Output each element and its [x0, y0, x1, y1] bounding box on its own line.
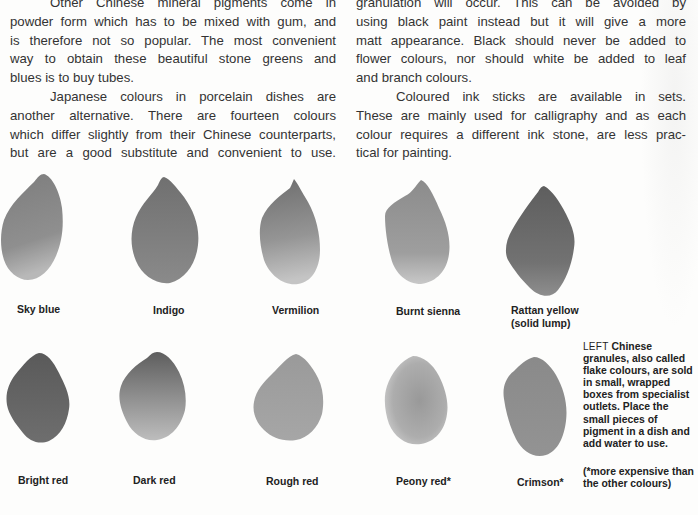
text-line: but are a good substitute and convenient… — [10, 144, 336, 163]
left-text-column: Other Chinese mineral pigments come in p… — [10, 0, 336, 163]
pigment-label: Indigo — [153, 304, 185, 317]
pigment-label: Bright red — [18, 474, 68, 487]
rough-red-flake — [252, 352, 326, 442]
pigment-label: Dark red — [133, 474, 176, 487]
vermilion-flake — [258, 178, 324, 286]
rattan-yellow-flake — [504, 184, 578, 300]
text-line: matt appearance. Black should never be a… — [356, 32, 686, 51]
burnt-sienna-flake — [383, 178, 453, 286]
pigment-label: Vermilion — [272, 304, 319, 317]
text-line: colour requires a different ink stone, a… — [356, 126, 686, 145]
text-line: which differ slightly from their Chinese… — [10, 126, 336, 145]
text-line: and branch colours. — [356, 69, 686, 88]
text-line: powder form which has to be mixed with g… — [10, 13, 336, 32]
pigment-label-line: Rattan yellow — [511, 304, 579, 317]
caption-footnote: (*more expensive than the other colours) — [583, 466, 698, 490]
text-line: tical for painting. — [356, 144, 686, 163]
text-line: Coloured ink sticks are available in set… — [356, 88, 686, 107]
sky-blue-flake — [0, 172, 66, 284]
text-line: These are mainly used for calligraphy an… — [356, 107, 686, 126]
text-line: flower colours, nor should white be adde… — [356, 50, 686, 69]
caption-lead: LEFT — [583, 341, 609, 352]
pigment-label-multiline: Rattan yellow (solid lump) — [511, 304, 579, 330]
pigment-label-line: (solid lump) — [511, 317, 579, 330]
dark-red-flake — [117, 350, 189, 442]
pigment-label: Burnt sienna — [396, 305, 460, 318]
pigment-label: Crimson* — [517, 476, 564, 489]
text-line: another alternative. There are fourteen … — [10, 107, 336, 126]
caption-text: Chinese granules, also called flake colo… — [583, 341, 693, 449]
peony-red-flake — [383, 354, 451, 446]
text-line: blues is to buy tubes. — [10, 69, 336, 88]
figure-caption: LEFT Chinese granules, also called flake… — [583, 341, 695, 450]
pigment-label: Rough red — [266, 475, 319, 488]
right-text-column: granulation will occur. This can be avoi… — [356, 0, 686, 163]
pigment-label: Peony red* — [396, 475, 451, 488]
text-line: using black paint instead but it will gi… — [356, 13, 686, 32]
text-line: Other Chinese mineral pigments come in — [10, 0, 336, 13]
text-line: Japanese colours in porcelain dishes are — [10, 88, 336, 107]
pigment-label: Sky blue — [17, 303, 60, 316]
crimson-flake — [502, 355, 570, 459]
text-line: granulation will occur. This can be avoi… — [356, 0, 686, 13]
text-line: way to obtain these beautiful stone gree… — [10, 50, 336, 69]
bright-red-flake — [5, 351, 71, 445]
indigo-flake — [130, 175, 202, 285]
text-line: is therefore not so popular. The most co… — [10, 32, 336, 51]
